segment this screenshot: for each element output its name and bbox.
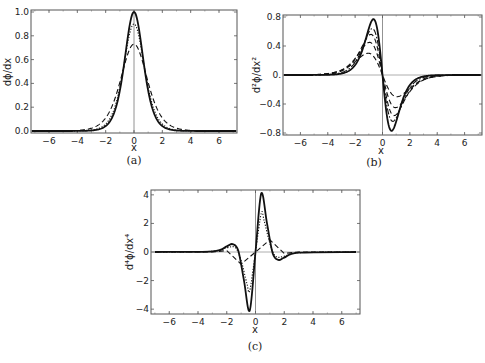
chart-panel-c: −6−4−20246−4−2024xd⁴ϕ/dx⁴(c) bbox=[124, 190, 360, 353]
x-tick-label: −2 bbox=[348, 138, 361, 148]
x-tick-label: 4 bbox=[310, 317, 316, 327]
x-tick-label: 2 bbox=[159, 136, 165, 146]
chart-panel-a: −6−4−202460.00.20.40.60.81.0xdϕ/dx(a) bbox=[2, 7, 237, 167]
x-axis-label: x bbox=[378, 145, 384, 156]
x-tick-label: 2 bbox=[407, 138, 413, 148]
x-tick-label: 4 bbox=[434, 138, 440, 148]
y-tick-label: 0.4 bbox=[267, 41, 282, 51]
y-tick-label: −0.8 bbox=[259, 128, 281, 138]
y-tick-label: 0.2 bbox=[15, 102, 29, 112]
y-tick-label: 0 bbox=[143, 247, 149, 257]
y-tick-label: 0. bbox=[272, 70, 281, 80]
y-axis-label: d²ϕ/dx² bbox=[251, 57, 262, 94]
y-tick-label: −2 bbox=[136, 276, 149, 286]
chart-panel-b: −6−4−20246−0.8−0.40.0.40.8xd²ϕ/dx²(b) bbox=[251, 12, 482, 169]
x-axis-label: x bbox=[252, 324, 258, 335]
x-tick-label: 2 bbox=[281, 317, 287, 327]
y-tick-label: 1.0 bbox=[15, 7, 30, 17]
x-tick-label: −6 bbox=[42, 136, 56, 146]
y-tick-label: −4 bbox=[136, 304, 150, 314]
x-tick-label: −2 bbox=[99, 136, 112, 146]
x-tick-label: −4 bbox=[191, 317, 205, 327]
x-tick-label: −6 bbox=[163, 317, 177, 327]
y-tick-label: 0.0 bbox=[15, 126, 30, 136]
y-axis-label: d⁴ϕ/dx⁴ bbox=[124, 234, 135, 271]
x-tick-label: 6 bbox=[339, 317, 345, 327]
y-axis-label: dϕ/dx bbox=[2, 58, 13, 87]
x-axis-label: x bbox=[131, 142, 137, 153]
x-tick-label: −6 bbox=[294, 138, 308, 148]
x-tick-label: −4 bbox=[71, 136, 85, 146]
x-tick-label: −4 bbox=[321, 138, 335, 148]
x-tick-label: 4 bbox=[188, 136, 194, 146]
y-tick-label: 2 bbox=[143, 218, 149, 228]
y-tick-label: 4 bbox=[143, 190, 149, 200]
x-tick-label: 6 bbox=[216, 136, 222, 146]
y-tick-label: −0.4 bbox=[259, 99, 281, 109]
panel-caption: (a) bbox=[126, 154, 141, 167]
x-tick-label: 6 bbox=[462, 138, 468, 148]
x-tick-label: −2 bbox=[220, 317, 233, 327]
panel-caption: (b) bbox=[366, 156, 382, 169]
y-tick-label: 0.8 bbox=[15, 31, 30, 41]
y-tick-label: 0.8 bbox=[267, 12, 282, 22]
panel-caption: (c) bbox=[248, 340, 263, 353]
y-tick-label: 0.6 bbox=[15, 55, 30, 65]
y-tick-label: 0.4 bbox=[15, 78, 30, 88]
